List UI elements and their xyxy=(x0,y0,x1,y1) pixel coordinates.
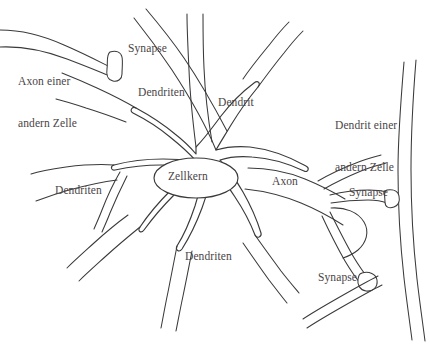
external-dendrite-right-edge xyxy=(411,60,425,341)
label-dendriten-top: Dendriten xyxy=(138,86,185,100)
axon-lower-edge xyxy=(245,189,343,225)
dendrite-bottom-center-a xyxy=(161,246,177,328)
dendrite-lower-left-a xyxy=(79,227,140,281)
external-dendrite-group xyxy=(398,60,425,341)
label-axon-other-cell-line2: andern Zelle xyxy=(18,116,77,130)
dendrite-upper-center-right xyxy=(146,9,227,131)
label-axon-other-cell: Axon einer andern Zelle xyxy=(18,46,77,158)
label-synapse-top: Synapse xyxy=(128,42,167,56)
label-zellkern: Zellkern xyxy=(168,170,208,184)
dendrite-fork-left-tip2 xyxy=(102,176,127,232)
label-dendriten-left: Dendriten xyxy=(55,184,102,198)
label-axon: Axon xyxy=(272,175,298,189)
label-axon-other-cell-line1: Axon einer xyxy=(18,74,77,88)
dendrite-top-left xyxy=(187,14,196,147)
dendrite-bottom-right-b xyxy=(243,243,287,303)
label-dendrit-other-cell-line2: andern Zelle xyxy=(335,160,397,174)
label-dendrit-other-cell-line1: Dendrit einer xyxy=(335,118,397,132)
dendrite-topright-outer xyxy=(258,31,303,87)
label-synapse-bottom: Synapse xyxy=(318,271,357,285)
dendrite-top-right xyxy=(203,14,212,142)
label-dendriten-bottom: Dendriten xyxy=(185,250,232,264)
dendrite-topright-inner xyxy=(243,22,289,79)
dendrite-bottom-right-a xyxy=(255,235,299,293)
neuron-diagram-figure: Axon einer andern Zelle Synapse Dendrite… xyxy=(0,0,430,358)
label-synapse-right: Synapse xyxy=(349,186,388,200)
label-dendrit: Dendrit xyxy=(218,96,254,110)
dendrite-lower-left-b xyxy=(67,215,128,268)
external-dendrite-left-edge xyxy=(398,62,412,340)
synapse-terminal-bulb-top xyxy=(107,51,123,81)
dendrite-under-bottom-synapse-b xyxy=(307,285,382,328)
dendrite-upper-center-left xyxy=(134,18,216,150)
dendrite-left-middle-a xyxy=(31,165,114,174)
axon-terminal-loop xyxy=(331,208,367,258)
